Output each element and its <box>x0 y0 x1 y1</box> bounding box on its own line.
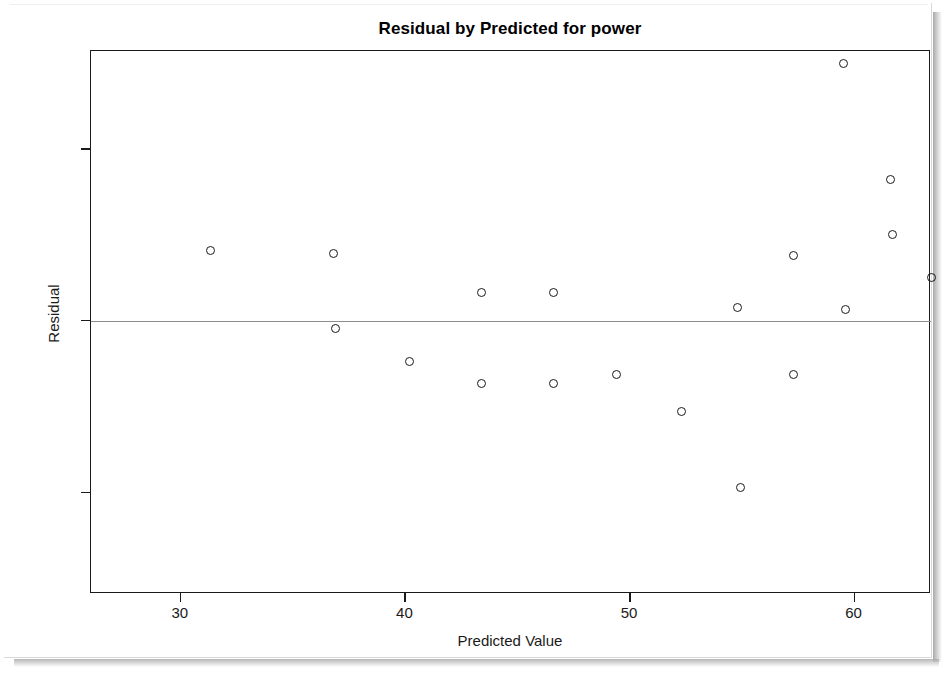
data-point <box>733 303 742 312</box>
data-point <box>886 175 895 184</box>
x-axis-tick <box>404 593 406 602</box>
data-point <box>612 370 621 379</box>
data-point <box>549 379 558 388</box>
y-axis-tick <box>81 320 90 322</box>
page-frame: Residual by Predicted for power 20-2 304… <box>0 0 946 675</box>
paper-shadow-right <box>933 12 942 662</box>
y-axis-label: Residual <box>45 254 62 374</box>
x-axis-tick-label: 30 <box>150 604 210 621</box>
chart-title: Residual by Predicted for power <box>90 19 930 39</box>
zero-reference-line <box>91 321 931 322</box>
data-point <box>839 59 848 68</box>
data-point <box>789 370 798 379</box>
data-point <box>549 288 558 297</box>
x-axis-tick <box>180 593 182 602</box>
x-axis-label: Predicted Value <box>90 632 930 649</box>
data-point <box>841 305 850 314</box>
data-point <box>206 246 215 255</box>
data-point <box>789 251 798 260</box>
x-axis-tick-label: 60 <box>824 604 884 621</box>
x-axis-tick-label: 40 <box>374 604 434 621</box>
scatter-plot-area <box>90 50 930 593</box>
paper-top-edge <box>10 4 928 5</box>
data-point <box>331 324 340 333</box>
data-point <box>329 249 338 258</box>
x-axis-tick <box>629 593 631 602</box>
paper-shadow-bottom <box>14 659 939 667</box>
data-point <box>888 230 897 239</box>
y-axis-tick <box>81 148 90 150</box>
y-axis-tick <box>81 492 90 494</box>
data-point <box>477 379 486 388</box>
data-point <box>736 483 745 492</box>
x-axis-tick <box>854 593 856 602</box>
data-point <box>677 407 686 416</box>
data-point <box>927 273 936 282</box>
data-point <box>405 357 414 366</box>
x-axis-tick-label: 50 <box>599 604 659 621</box>
data-point <box>477 288 486 297</box>
